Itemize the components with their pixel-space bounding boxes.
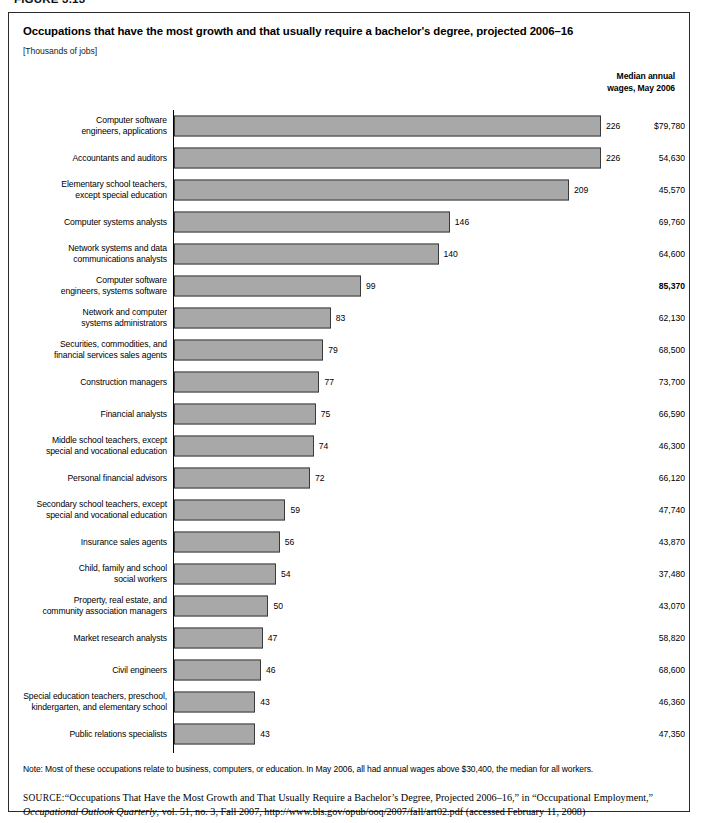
chart-row: Elementary school teachers,except specia… bbox=[9, 174, 691, 206]
category-label-line: Special education teachers, preschool, bbox=[0, 691, 167, 702]
category-label-line: Computer software bbox=[0, 115, 167, 126]
bar bbox=[174, 180, 569, 201]
category-label: Child, family and schoolsocial workers bbox=[0, 563, 167, 584]
bar bbox=[174, 308, 331, 329]
category-label-line: Secondary school teachers, except bbox=[0, 499, 167, 510]
category-label: Property, real estate, andcommunity asso… bbox=[0, 595, 167, 616]
category-label-line: Accountants and auditors bbox=[0, 153, 167, 164]
chart-row: Computer softwareengineers, applications… bbox=[9, 110, 691, 142]
page-title: Occupations that have the most growth an… bbox=[23, 25, 677, 37]
units-label: [Thousands of jobs] bbox=[23, 46, 677, 56]
chart-row: Network and computersystems administrato… bbox=[9, 302, 691, 334]
wages-column-header: Median annual wages, May 2006 bbox=[555, 71, 675, 94]
bar bbox=[174, 468, 310, 489]
bar-value-label: 77 bbox=[324, 377, 334, 387]
bar bbox=[174, 276, 361, 297]
median-wage-value: 46,360 bbox=[565, 697, 685, 707]
median-wage-value: 66,120 bbox=[565, 473, 685, 483]
figure-frame: Occupations that have the most growth an… bbox=[8, 12, 690, 812]
bar bbox=[174, 564, 276, 585]
category-label-line: Insurance sales agents bbox=[0, 537, 167, 548]
category-label: Securities, commodities, andfinancial se… bbox=[0, 339, 167, 360]
median-wage-value: 58,820 bbox=[565, 633, 685, 643]
category-label-line: special and vocational education bbox=[0, 446, 167, 457]
bar-value-label: 72 bbox=[315, 473, 325, 483]
source-text-1: “Occupations That Have the Most Growth a… bbox=[65, 792, 653, 803]
median-wage-value: 47,350 bbox=[565, 729, 685, 739]
category-label-line: engineers, systems software bbox=[0, 286, 167, 297]
bar-value-label: 79 bbox=[328, 345, 338, 355]
bar-value-label: 140 bbox=[444, 249, 458, 259]
category-label: Special education teachers, preschool,ki… bbox=[0, 691, 167, 712]
bar-value-label: 50 bbox=[273, 601, 283, 611]
chart-row: Securities, commodities, andfinancial se… bbox=[9, 334, 691, 366]
median-wage-value: 85,370 bbox=[565, 281, 685, 291]
wages-column-header-line1: Median annual bbox=[555, 71, 675, 83]
median-wage-value: 64,600 bbox=[565, 249, 685, 259]
bar bbox=[174, 148, 601, 169]
chart-row: Middle school teachers, exceptspecial an… bbox=[9, 430, 691, 462]
bar bbox=[174, 212, 450, 233]
median-wage-value: 43,070 bbox=[565, 601, 685, 611]
median-wage-value: 73,700 bbox=[565, 377, 685, 387]
bar-value-label: 43 bbox=[260, 697, 270, 707]
bar-value-label: 59 bbox=[290, 505, 300, 515]
category-label-line: community association managers bbox=[0, 606, 167, 617]
median-wage-value: 68,500 bbox=[565, 345, 685, 355]
category-label-line: communications analysts bbox=[0, 254, 167, 265]
median-wage-value: 66,590 bbox=[565, 409, 685, 419]
category-label: Network systems and datacommunications a… bbox=[0, 243, 167, 264]
category-label-line: Civil engineers bbox=[0, 665, 167, 676]
chart-row: Construction managers7773,700 bbox=[9, 366, 691, 398]
bar-value-label: 83 bbox=[336, 313, 346, 323]
category-label: Market research analysts bbox=[0, 633, 167, 644]
category-label: Network and computersystems administrato… bbox=[0, 307, 167, 328]
median-wage-value: 45,570 bbox=[565, 185, 685, 195]
bar-value-label: 47 bbox=[268, 633, 278, 643]
category-label-line: Securities, commodities, and bbox=[0, 339, 167, 350]
category-label-line: social workers bbox=[0, 574, 167, 585]
category-label-line: Network systems and data bbox=[0, 243, 167, 254]
category-label: Construction managers bbox=[0, 377, 167, 388]
bar bbox=[174, 532, 280, 553]
category-label-line: kindergarten, and elementary school bbox=[0, 702, 167, 713]
bar bbox=[174, 692, 255, 713]
category-label: Civil engineers bbox=[0, 665, 167, 676]
median-wage-value: 43,870 bbox=[565, 537, 685, 547]
category-label-line: Computer software bbox=[0, 275, 167, 286]
bar bbox=[174, 372, 319, 393]
chart-row: Market research analysts4758,820 bbox=[9, 622, 691, 654]
category-label-line: Personal financial advisors bbox=[0, 473, 167, 484]
chart-row: Secondary school teachers, exceptspecial… bbox=[9, 494, 691, 526]
category-label-line: engineers, applications bbox=[0, 126, 167, 137]
category-label: Financial analysts bbox=[0, 409, 167, 420]
chart-source: SOURCE:“Occupations That Have the Most G… bbox=[23, 791, 685, 818]
category-label-line: Elementary school teachers, bbox=[0, 179, 167, 190]
median-wage-value: 54,630 bbox=[565, 153, 685, 163]
category-label-line: financial services sales agents bbox=[0, 350, 167, 361]
source-publication: Occupational Outlook Quarterly bbox=[23, 806, 157, 817]
category-label: Computer softwareengineers, applications bbox=[0, 115, 167, 136]
category-label: Secondary school teachers, exceptspecial… bbox=[0, 499, 167, 520]
chart-row: Accountants and auditors22654,630 bbox=[9, 142, 691, 174]
bar bbox=[174, 628, 263, 649]
category-label: Insurance sales agents bbox=[0, 537, 167, 548]
bar bbox=[174, 404, 316, 425]
chart-row: Insurance sales agents5643,870 bbox=[9, 526, 691, 558]
bar-value-label: 43 bbox=[260, 729, 270, 739]
chart-row: Financial analysts7566,590 bbox=[9, 398, 691, 430]
median-wage-value: 47,740 bbox=[565, 505, 685, 515]
category-label-line: Construction managers bbox=[0, 377, 167, 388]
category-label-line: special and vocational education bbox=[0, 510, 167, 521]
figure-number-label: FIGURE 3.13 bbox=[14, 0, 85, 5]
category-label-line: Network and computer bbox=[0, 307, 167, 318]
category-label: Public relations specialists bbox=[0, 729, 167, 740]
bar-value-label: 146 bbox=[455, 217, 469, 227]
bar bbox=[174, 724, 255, 745]
bar-value-label: 56 bbox=[285, 537, 295, 547]
bar-value-label: 46 bbox=[266, 665, 276, 675]
bar bbox=[174, 596, 268, 617]
median-wage-value: 68,600 bbox=[565, 665, 685, 675]
median-wage-value: 69,760 bbox=[565, 217, 685, 227]
median-wage-value: 37,480 bbox=[565, 569, 685, 579]
